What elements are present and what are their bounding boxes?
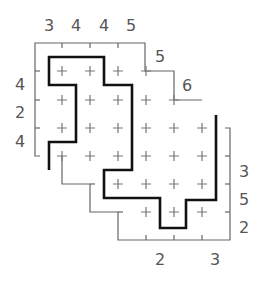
step-clue-2: 6 — [182, 78, 192, 94]
right-clue-1: 3 — [239, 164, 249, 180]
bottom-clue-1: 2 — [155, 252, 165, 268]
puzzle-board — [0, 0, 263, 288]
right-clue-3: 2 — [239, 220, 249, 236]
top-clue-3: 4 — [99, 18, 109, 34]
step-clue-1: 5 — [155, 49, 165, 65]
top-clue-4: 5 — [126, 18, 136, 34]
top-clue-2: 4 — [71, 18, 81, 34]
left-clue-1: 4 — [15, 77, 25, 93]
top-clue-1: 3 — [44, 18, 54, 34]
left-clue-3: 4 — [15, 134, 25, 150]
bottom-clue-2: 3 — [210, 252, 220, 268]
left-clue-2: 2 — [15, 105, 25, 121]
right-clue-2: 5 — [239, 192, 249, 208]
